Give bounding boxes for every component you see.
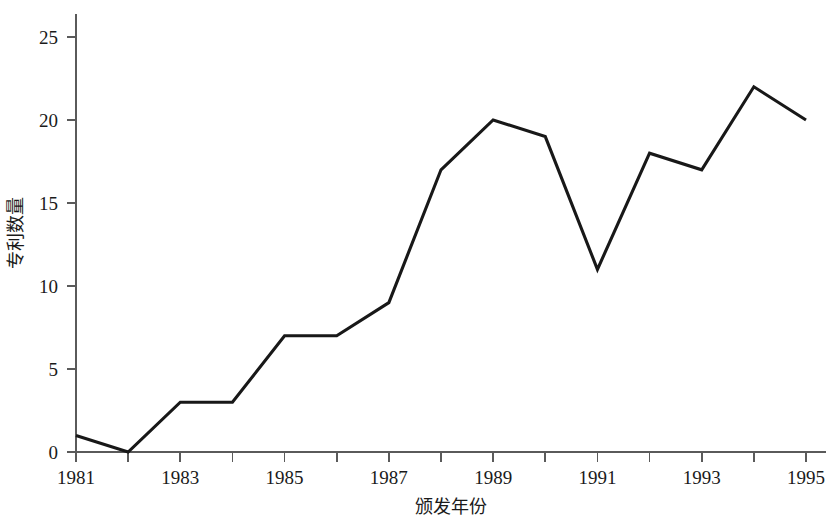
x-tick-label: 1993 xyxy=(683,467,721,488)
x-tick-label: 1985 xyxy=(266,467,304,488)
y-tick-label: 10 xyxy=(39,276,58,297)
y-tick-label: 25 xyxy=(39,27,58,48)
x-tick-label: 1981 xyxy=(57,467,95,488)
x-tick-label: 1995 xyxy=(787,467,825,488)
x-axis-title: 颁发年份 xyxy=(415,497,487,517)
y-tick-label: 15 xyxy=(39,193,58,214)
x-tick-label: 1989 xyxy=(474,467,512,488)
y-axis-title: 专利数量 xyxy=(6,197,26,269)
y-tick-label: 20 xyxy=(39,110,58,131)
chart-background xyxy=(0,0,837,526)
line-chart-figure: 0510152025 19811983198519871989199119931… xyxy=(0,0,837,526)
y-tick-label: 5 xyxy=(49,359,59,380)
chart-canvas: 0510152025 19811983198519871989199119931… xyxy=(0,0,837,526)
x-tick-label: 1987 xyxy=(370,467,408,488)
y-tick-label: 0 xyxy=(49,442,59,463)
x-tick-label: 1983 xyxy=(161,467,199,488)
x-tick-label: 1991 xyxy=(578,467,616,488)
